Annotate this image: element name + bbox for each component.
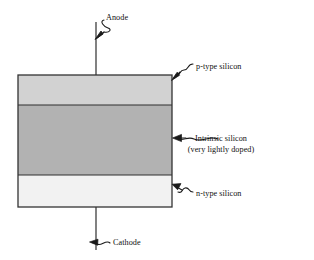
- layer-n-type: [18, 175, 172, 207]
- anode-label: Anode: [106, 13, 128, 24]
- intrinsic-silicon-label-line1: Intrinsic silicon: [188, 134, 254, 145]
- diagram-canvas: [0, 0, 314, 260]
- layer-p-type: [18, 75, 172, 105]
- p-type-silicon-label: p-type silicon: [196, 62, 242, 73]
- pin-diode-diagram: Anode Cathode p-type silicon Intrinsic s…: [0, 0, 314, 260]
- cathode-leader-arrow: [90, 239, 111, 245]
- cathode-label: Cathode: [113, 238, 141, 249]
- p-type-leader-arrow: [172, 64, 194, 81]
- layer-intrinsic: [18, 105, 172, 175]
- intrinsic-silicon-label-line2: (very lightly doped): [188, 145, 254, 156]
- intrinsic-silicon-label: Intrinsic silicon (very lightly doped): [188, 134, 254, 155]
- n-type-leader-arrow: [172, 184, 193, 193]
- n-type-silicon-label: n-type silicon: [196, 189, 242, 200]
